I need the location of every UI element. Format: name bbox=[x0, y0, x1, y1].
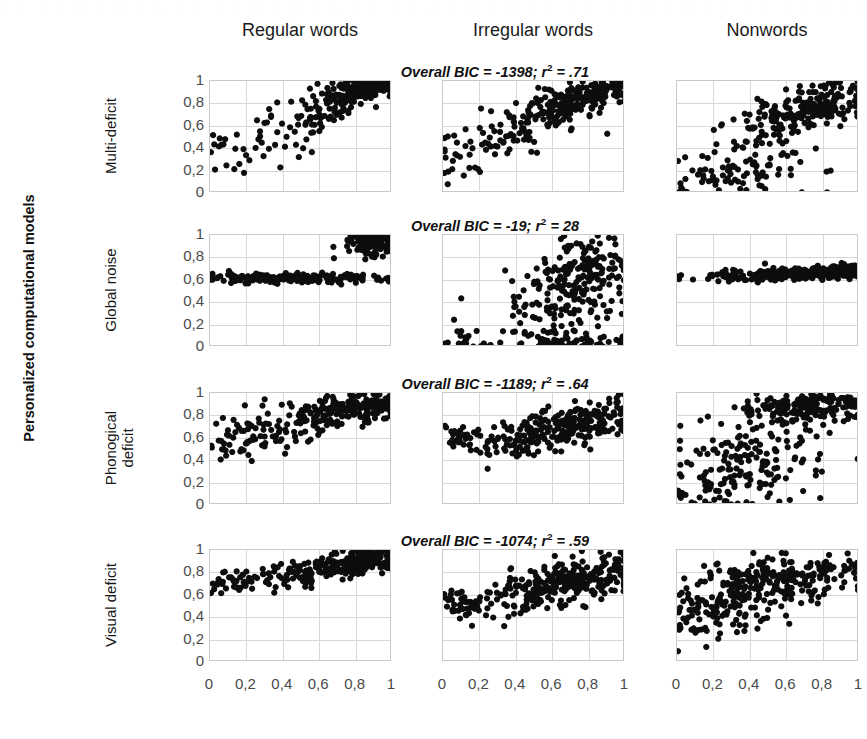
x-tick-label: 0 bbox=[438, 673, 446, 695]
column-header-2: Nonwords bbox=[631, 18, 867, 42]
y-tick-label: 0,4 bbox=[183, 451, 204, 467]
scatter-canvas bbox=[210, 235, 391, 346]
x-tick-label: 0,4 bbox=[271, 673, 292, 695]
bic-value: -1074 bbox=[496, 533, 533, 549]
scatter-canvas bbox=[210, 550, 391, 661]
row-label-3: Visual deficit bbox=[102, 530, 122, 680]
scatter-panel-r1-c0 bbox=[209, 234, 391, 346]
scatter-panel-r2-c0 bbox=[209, 392, 391, 504]
r2-equals: = bbox=[546, 218, 563, 234]
x-ticks-col-1: 00,20,40,60,81 bbox=[442, 673, 624, 695]
x-tick-label: 0 bbox=[205, 673, 213, 695]
x-tick-label: 0,8 bbox=[811, 673, 832, 695]
y-tick-label: 0,2 bbox=[183, 316, 204, 332]
y-tick-label: 1 bbox=[196, 72, 204, 88]
scatter-panel-r0-c0 bbox=[209, 80, 391, 192]
r2-equals: = bbox=[552, 64, 569, 80]
r2-equals: = bbox=[552, 533, 569, 549]
y-tick-label: 0,8 bbox=[183, 563, 204, 579]
y-tick-label: 0 bbox=[196, 496, 204, 512]
y-ticks-row-0: 10,80,60,40,20 bbox=[152, 80, 204, 192]
y-tick-label: 0 bbox=[196, 184, 204, 200]
x-tick-label: 0,2 bbox=[235, 673, 256, 695]
bic-annotation-row-0: Overall BIC = -1398; r2 = .71 bbox=[330, 58, 660, 78]
bic-text: Overall BIC = bbox=[401, 64, 496, 80]
y-tick-label: 1 bbox=[196, 541, 204, 557]
bic-annotation-row-2: Overall BIC = -1189; r2 = .64 bbox=[330, 370, 660, 390]
x-tick-label: 1 bbox=[387, 673, 395, 695]
bic-text: Overall BIC = bbox=[401, 533, 496, 549]
y-tick-label: 0,8 bbox=[183, 406, 204, 422]
y-tick-label: 0 bbox=[196, 653, 204, 669]
scatter-panel-r0-c1 bbox=[442, 80, 624, 192]
scatter-canvas bbox=[443, 81, 624, 192]
row-label-1: Global noise bbox=[102, 215, 122, 365]
x-tick-label: 1 bbox=[620, 673, 628, 695]
x-tick-label: 0,6 bbox=[775, 673, 796, 695]
y-tick-label: 0,2 bbox=[183, 474, 204, 490]
x-tick-label: 0,2 bbox=[468, 673, 489, 695]
y-tick-label: 1 bbox=[196, 384, 204, 400]
column-header-1: Irregular words bbox=[397, 18, 669, 42]
y-tick-label: 0,4 bbox=[183, 293, 204, 309]
scatter-canvas bbox=[443, 235, 624, 346]
x-tick-label: 1 bbox=[854, 673, 862, 695]
scatter-canvas bbox=[677, 235, 858, 346]
r2-value: .71 bbox=[569, 64, 589, 80]
y-ticks-row-1: 10,80,60,40,20 bbox=[152, 234, 204, 346]
y-tick-label: 0,6 bbox=[183, 271, 204, 287]
y-tick-label: 0,8 bbox=[183, 248, 204, 264]
scatter-canvas bbox=[210, 81, 391, 192]
bic-text: Overall BIC = bbox=[401, 376, 496, 392]
r2-value: .64 bbox=[568, 376, 588, 392]
r2-value: .59 bbox=[569, 533, 589, 549]
x-tick-label: 0,6 bbox=[541, 673, 562, 695]
scatter-panel-r3-c1 bbox=[442, 549, 624, 661]
bic-value: -19 bbox=[506, 218, 527, 234]
bic-value: -1189 bbox=[496, 376, 532, 392]
y-tick-label: 0,2 bbox=[183, 631, 204, 647]
x-ticks-col-2: 00,20,40,60,81 bbox=[676, 673, 858, 695]
row-label-0: Multi-deficit bbox=[102, 61, 122, 211]
x-tick-label: 0,4 bbox=[504, 673, 525, 695]
scatter-matrix-figure: Personalized computational models Regula… bbox=[0, 0, 867, 739]
bic-separator: ; bbox=[533, 64, 542, 80]
r2-value: 28 bbox=[563, 218, 579, 234]
bic-separator: ; bbox=[532, 376, 541, 392]
r2-equals: = bbox=[552, 376, 569, 392]
scatter-canvas bbox=[443, 550, 624, 661]
y-tick-label: 1 bbox=[196, 226, 204, 242]
y-tick-label: 0,6 bbox=[183, 586, 204, 602]
scatter-canvas bbox=[677, 550, 858, 661]
scatter-panel-r1-c1 bbox=[442, 234, 624, 346]
scatter-canvas bbox=[677, 81, 858, 192]
scatter-panel-r2-c2 bbox=[676, 392, 858, 504]
x-tick-label: 0,4 bbox=[738, 673, 759, 695]
x-tick-label: 0,6 bbox=[308, 673, 329, 695]
scatter-panel-r3-c2 bbox=[676, 549, 858, 661]
bic-annotation-row-3: Overall BIC = -1074; r2 = .59 bbox=[330, 527, 660, 547]
scatter-panel-r3-c0 bbox=[209, 549, 391, 661]
y-tick-label: 0,4 bbox=[183, 608, 204, 624]
bic-annotation-row-1: Overall BIC = -19; r2 = 28 bbox=[330, 212, 660, 232]
scatter-canvas bbox=[443, 393, 624, 504]
bic-separator: ; bbox=[533, 533, 542, 549]
y-tick-label: 0,6 bbox=[183, 429, 204, 445]
x-tick-label: 0 bbox=[672, 673, 680, 695]
y-tick-label: 0,4 bbox=[183, 139, 204, 155]
scatter-canvas bbox=[210, 393, 391, 504]
y-tick-label: 0,6 bbox=[183, 117, 204, 133]
bic-text: Overall BIC = bbox=[411, 218, 506, 234]
scatter-panel-r0-c2 bbox=[676, 80, 858, 192]
bic-value: -1398 bbox=[496, 64, 533, 80]
x-tick-label: 0,2 bbox=[702, 673, 723, 695]
column-header-0: Regular words bbox=[164, 18, 436, 42]
scatter-panel-r2-c1 bbox=[442, 392, 624, 504]
y-tick-label: 0,2 bbox=[183, 162, 204, 178]
y-ticks-row-3: 10,80,60,40,20 bbox=[152, 549, 204, 661]
scatter-panel-r1-c2 bbox=[676, 234, 858, 346]
figure-y-axis-title: Personalized computational models bbox=[21, 193, 37, 443]
y-tick-label: 0,8 bbox=[183, 94, 204, 110]
y-ticks-row-2: 10,80,60,40,20 bbox=[152, 392, 204, 504]
scatter-canvas bbox=[677, 393, 858, 504]
